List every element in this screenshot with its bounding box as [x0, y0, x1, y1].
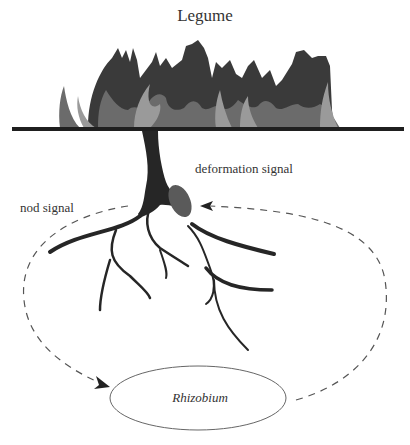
legume-diagram: [0, 0, 410, 445]
nod-signal-label: nod signal: [20, 200, 74, 216]
ground-line: [12, 127, 404, 131]
lateral-roots: [50, 208, 274, 350]
rhizobium-label: Rhizobium: [110, 390, 290, 406]
arrow-to-rhizobium-icon: [94, 376, 110, 389]
signal-loop: [24, 206, 128, 383]
diagram-title: Legume: [0, 6, 410, 26]
deformation-signal-label: deformation signal: [195, 161, 293, 177]
